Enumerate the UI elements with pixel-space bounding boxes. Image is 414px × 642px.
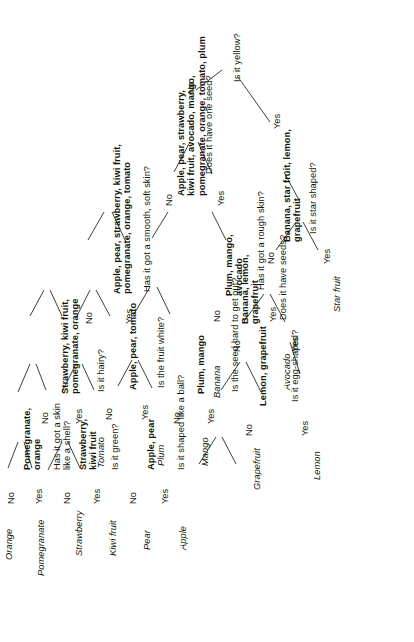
leaf-lemon: Lemon xyxy=(312,451,322,480)
leaf-mango: Mango xyxy=(200,437,210,466)
set-pomegranate-orange: Pomegranate, orange xyxy=(22,408,43,470)
question-skin-like-shell: Has it got a skin like a shell? xyxy=(52,403,73,470)
question-is-hairy: Is it hairy? xyxy=(96,349,106,392)
question-seed-hard-to-get-out: Is the seed hard to get out? xyxy=(230,277,240,392)
edge-no-one-seed: No xyxy=(164,194,174,206)
question-have-seeds: Does it have seeds? xyxy=(278,235,288,320)
leaf-star-fruit: Star fruit xyxy=(332,276,342,312)
edge-yes-shell: Yes xyxy=(34,489,44,504)
question-fruit-white: Is the fruit white? xyxy=(156,317,166,388)
edge-no-shaped-ball: No xyxy=(128,492,138,504)
edge-no-egg-shaped: No xyxy=(244,424,254,436)
leaf-apple: Apple xyxy=(178,526,188,550)
question-is-yellow: Is it yellow? xyxy=(232,33,242,82)
question-have-one-seed: Does it have one seed? xyxy=(204,75,214,174)
leaf-kiwi-fruit: Kiwi fruit xyxy=(108,520,118,556)
leaf-orange: Orange xyxy=(4,529,14,560)
leaf-plum: Plum xyxy=(156,445,166,466)
set-strawberry-kiwi: Strawberry, kiwi fruit xyxy=(78,419,99,470)
leaf-grapefruit: Grapefruit xyxy=(252,448,262,490)
set-smooth-group: Apple, pear, strawberry, kiwi fruit, pom… xyxy=(112,144,133,294)
set-one-seed-group: Apple, pear, strawberry, kiwi fruit, avo… xyxy=(176,36,207,196)
edge-yes-shaped-ball: Yes xyxy=(160,489,170,504)
edge-yes-star-shaped: Yes xyxy=(322,249,332,264)
set-strawberry-kiwi-pom-orange: Strawberry, kiwi fruit, pomegranate, ora… xyxy=(60,299,81,395)
leaf-pear: Pear xyxy=(142,530,152,550)
leaf-pomegranate: Pomegranate xyxy=(36,520,46,576)
edge-no-green: No xyxy=(62,492,72,504)
set-apple-pear: Apple, pear xyxy=(146,419,156,470)
set-banana-star-lemon-grapefruit: Banana, star fruit, lemon, grapefruit xyxy=(282,129,303,242)
edge-no-shell: No xyxy=(6,492,16,504)
edge-yes-egg-shaped: Yes xyxy=(300,421,310,436)
edge-yes-rough-skin: Yes xyxy=(268,307,278,322)
edge-yes-green: Yes xyxy=(92,489,102,504)
set-plum-mango: Plum, mango xyxy=(196,335,206,394)
set-apple-pear-tomato: Apple, pear, tomato xyxy=(128,303,138,390)
edge-yes-root: Yes xyxy=(272,114,282,129)
edge-yes-fruit-white: Yes xyxy=(140,405,150,420)
edge-no-fruit-white: No xyxy=(104,408,114,420)
question-rough-skin: Has it got a rough skin? xyxy=(256,191,266,290)
question-smooth-soft-skin: Has it got a smooth, soft skin? xyxy=(142,166,152,292)
edge-no-rough-skin: No xyxy=(212,310,222,322)
question-shaped-like-ball: Is it shaped like a ball? xyxy=(176,375,186,470)
edge-no-smooth-skin: No xyxy=(84,312,94,324)
question-is-star-shaped: Is it star shaped? xyxy=(308,162,318,234)
leaf-banana: Banana xyxy=(212,366,222,398)
edge-yes-one-seed: Yes xyxy=(216,191,226,206)
figure-canvas: Is it yellow? Yes No Banana, star fruit,… xyxy=(0,0,414,642)
leaf-strawberry: Strawberry xyxy=(74,511,84,556)
set-lemon-grapefruit: Lemon, grapefruit xyxy=(258,326,268,406)
edge-no-star-shaped: No xyxy=(266,252,276,264)
question-is-green: Is it green? xyxy=(110,423,120,470)
decision-tree: Is it yellow? Yes No Banana, star fruit,… xyxy=(0,0,414,642)
leaf-avocado: Avocado xyxy=(282,354,292,390)
edge-yes-seed-hard: Yes xyxy=(206,409,216,424)
